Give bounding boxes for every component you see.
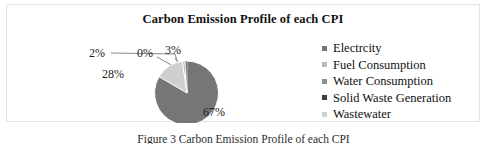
legend-item-electrcity[interactable]: Electrcity bbox=[322, 40, 482, 57]
chart-legend: Electrcity Fuel Consumption Water Consum… bbox=[322, 40, 482, 123]
chart-frame: Carbon Emission Profile of each CPI 2% 0… bbox=[6, 4, 480, 122]
legend-swatch-icon-fuel-consumption bbox=[322, 62, 327, 67]
legend-swatch-icon-water-consumption bbox=[322, 79, 327, 84]
legend-swatch-icon-electrcity bbox=[322, 46, 327, 51]
data-label-wastewater: 28% bbox=[102, 68, 124, 80]
data-label-solid-waste-generation: 3% bbox=[165, 44, 181, 56]
legend-item-solid-waste-generation[interactable]: Solid Waste Generation bbox=[322, 90, 482, 107]
pie-plot-area: 2% 0% 3% 28% 67% bbox=[7, 31, 307, 123]
figure-caption: Figure 3 Carbon Emission Profile of each… bbox=[0, 133, 487, 144]
legend-label-solid-waste-generation: Solid Waste Generation bbox=[333, 92, 451, 105]
legend-item-water-consumption[interactable]: Water Consumption bbox=[322, 73, 482, 90]
pie-chart-svg bbox=[7, 31, 307, 123]
data-label-water-consumption: 0% bbox=[137, 47, 153, 59]
legend-label-water-consumption: Water Consumption bbox=[333, 75, 433, 88]
legend-label-wastewater: Wastewater bbox=[333, 108, 391, 121]
legend-label-fuel-consumption: Fuel Consumption bbox=[333, 59, 426, 72]
legend-swatch-icon-solid-waste-generation bbox=[322, 95, 327, 100]
data-label-electrcity: 67% bbox=[203, 106, 225, 118]
data-label-fuel-consumption: 2% bbox=[89, 47, 105, 59]
legend-label-electrcity: Electrcity bbox=[333, 42, 382, 55]
legend-swatch-icon-wastewater bbox=[322, 112, 327, 117]
legend-item-wastewater[interactable]: Wastewater bbox=[322, 106, 482, 123]
legend-item-fuel-consumption[interactable]: Fuel Consumption bbox=[322, 57, 482, 74]
chart-title: Carbon Emission Profile of each CPI bbox=[7, 12, 479, 27]
